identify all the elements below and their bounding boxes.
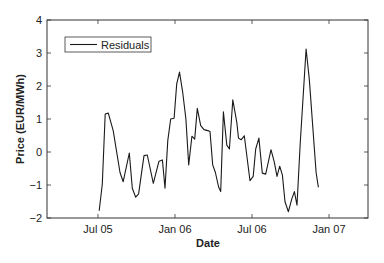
y-axis-label: Price (EUR/MWh)	[14, 74, 26, 164]
x-axis-label: Date	[196, 237, 220, 249]
y-tick-label: 2	[36, 80, 42, 92]
x-tick-label: Jul 05	[83, 223, 112, 235]
y-tick-label: −2	[29, 212, 42, 224]
y-tick-label: 3	[36, 47, 42, 59]
x-tick-label: Jul 06	[237, 223, 266, 235]
y-tick-label: 1	[36, 113, 42, 125]
y-tick-label: 0	[36, 146, 42, 158]
x-tick-label: Jan 07	[313, 223, 346, 235]
legend: Residuals	[65, 37, 151, 52]
y-tick-label: −1	[29, 179, 42, 191]
x-tick-label: Jan 06	[158, 223, 191, 235]
line-chart: Jul 05Jan 06Jul 06Jan 07−2−101234 Residu…	[0, 0, 384, 263]
legend-label: Residuals	[101, 39, 150, 51]
y-tick-label: 4	[36, 14, 42, 26]
